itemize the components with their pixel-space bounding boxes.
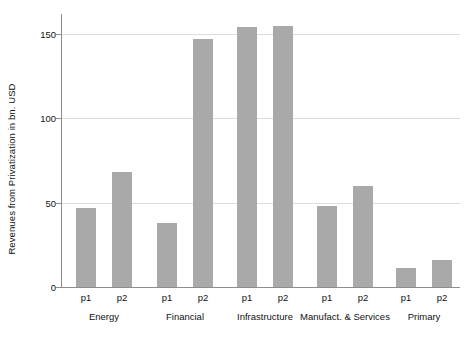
bar-chart: Revenues from Privatization in bn. USD 0…: [0, 0, 467, 338]
bar: [396, 268, 416, 287]
x-group-label: Primary: [408, 311, 441, 322]
bar: [76, 208, 96, 287]
x-sub-label: p1: [322, 292, 333, 303]
bar: [432, 260, 452, 287]
x-group-label: Infrastructure: [237, 311, 293, 322]
x-sub-label: p2: [437, 292, 448, 303]
x-sub-label: p2: [278, 292, 289, 303]
x-axis-line: [61, 287, 460, 288]
bar: [157, 223, 177, 287]
x-sub-label: p2: [198, 292, 209, 303]
bar: [353, 186, 373, 287]
x-sub-label: p2: [358, 292, 369, 303]
y-tick-label-0: 0: [10, 282, 56, 293]
x-group-label: Financial: [166, 311, 204, 322]
x-sub-label: p2: [117, 292, 128, 303]
bar: [273, 26, 293, 287]
y-tick-label-50: 50: [10, 197, 56, 208]
x-sub-label: p1: [162, 292, 173, 303]
bar: [237, 27, 257, 287]
plot-area: [62, 14, 460, 287]
x-sub-label: p1: [242, 292, 253, 303]
gridline-100: [62, 118, 460, 119]
y-tick-label-150: 150: [10, 29, 56, 40]
x-sub-label: p1: [81, 292, 92, 303]
x-group-label: Manufact. & Services: [300, 311, 390, 322]
x-sub-label: p1: [401, 292, 412, 303]
x-group-label: Energy: [89, 311, 119, 322]
bar: [193, 39, 213, 287]
bar: [112, 172, 132, 287]
gridline-150: [62, 34, 460, 35]
bar: [317, 206, 337, 287]
y-tick-label-100: 100: [10, 113, 56, 124]
